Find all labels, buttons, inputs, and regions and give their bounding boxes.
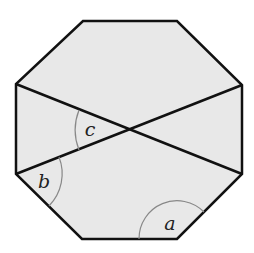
angle-label-b: b bbox=[38, 170, 50, 192]
angle-label-a: a bbox=[164, 212, 175, 234]
angle-label-c: c bbox=[85, 118, 96, 140]
octagon-diagram: c b a bbox=[0, 0, 254, 253]
